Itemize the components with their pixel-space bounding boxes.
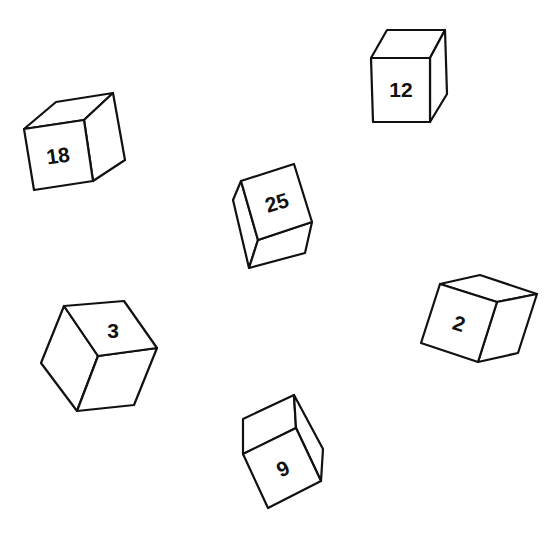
cube-18-label: 18 [45, 142, 72, 168]
cube-25: 25 [233, 164, 312, 268]
cube-18: 18 [24, 93, 125, 190]
diagram-svg: 18 12 25 3 2 [0, 0, 560, 536]
cube-3: 3 [41, 301, 157, 411]
cube-diagram: 18 12 25 3 2 [0, 0, 560, 536]
cube-2: 2 [421, 275, 537, 362]
cube-12-label: 12 [389, 78, 412, 101]
cube-9: 9 [243, 395, 323, 508]
cube-12: 12 [371, 30, 447, 122]
cube-3-label: 3 [107, 319, 119, 342]
